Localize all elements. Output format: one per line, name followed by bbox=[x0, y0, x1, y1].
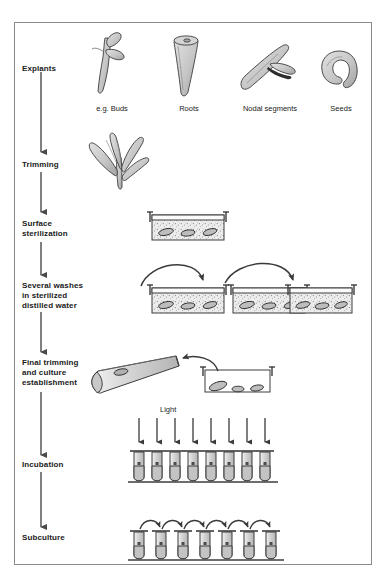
incubation-tube bbox=[238, 451, 256, 481]
subculture-arrow bbox=[140, 520, 160, 529]
explant-nodal-segment-shape bbox=[241, 45, 295, 89]
sterilization-tray bbox=[147, 212, 229, 240]
culture-tube-angled bbox=[92, 356, 179, 393]
wash-transfer-arrow-1 bbox=[141, 265, 203, 286]
subculture-tube bbox=[130, 531, 148, 559]
incubation-tube bbox=[184, 451, 202, 481]
incubation-tube bbox=[256, 451, 274, 481]
explant-label-buds: e.g. Buds bbox=[72, 104, 152, 113]
incubation-tube bbox=[130, 451, 148, 481]
stage-label-surface-sterilization: Surface sterilization bbox=[22, 219, 68, 239]
explant-label-seeds: Seeds bbox=[313, 104, 369, 113]
figure-root: Explants Trimming Surface sterilization … bbox=[0, 0, 391, 581]
stage-label-incubation: Incubation bbox=[22, 460, 63, 470]
explant-seed-shape bbox=[322, 51, 357, 88]
wash-tray-3 bbox=[285, 285, 357, 313]
subculture-arrow bbox=[206, 520, 226, 529]
incubation-tube-rack bbox=[128, 451, 278, 482]
wash-transfer-arrow-2 bbox=[225, 263, 293, 283]
explant-label-nodal-segments: Nodal segments bbox=[225, 104, 315, 113]
wash-transfer-arrows bbox=[141, 263, 293, 286]
inoculation-transfer-arrow bbox=[183, 357, 218, 371]
stage-label-explants: Explants bbox=[22, 64, 56, 74]
subculture-arrow bbox=[184, 520, 204, 529]
trimmed-shoot-shape bbox=[89, 133, 148, 189]
incubation-tube bbox=[148, 451, 166, 481]
subculture-tube bbox=[262, 531, 280, 559]
subculture-tube bbox=[152, 531, 170, 559]
subculture-arrow bbox=[162, 520, 182, 529]
light-arrows bbox=[139, 418, 265, 442]
stage-label-trimming: Trimming bbox=[22, 160, 59, 170]
explant-label-roots: Roots bbox=[159, 104, 219, 113]
subculture-transfer-arrows bbox=[140, 520, 270, 529]
incubation-tube bbox=[202, 451, 220, 481]
subculture-tube bbox=[240, 531, 258, 559]
final-trimming-tray bbox=[200, 367, 275, 393]
subculture-arrow bbox=[250, 520, 270, 529]
stage-label-final-trimming: Final trimming and culture establishment bbox=[22, 358, 79, 388]
stage-label-several-washes: Several washes in sterilized distilled w… bbox=[22, 281, 83, 311]
tray-explant bbox=[232, 386, 244, 392]
wash-tray-1 bbox=[147, 285, 229, 313]
subculture-tube bbox=[174, 531, 192, 559]
incubation-tube bbox=[220, 451, 238, 481]
subculture-tube-rack bbox=[128, 531, 284, 560]
stage-label-subculture: Subculture bbox=[22, 533, 65, 543]
incubation-tube bbox=[166, 451, 184, 481]
explant-root-shape bbox=[174, 36, 198, 96]
explant-bud-shape bbox=[92, 33, 124, 93]
light-label: Light bbox=[160, 405, 176, 414]
subculture-arrow bbox=[228, 520, 248, 529]
subculture-tube bbox=[218, 531, 236, 559]
subculture-tube bbox=[196, 531, 214, 559]
